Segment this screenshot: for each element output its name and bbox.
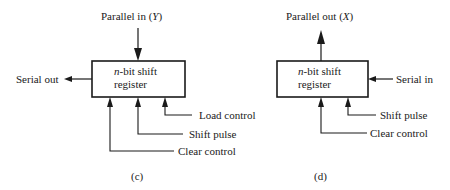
shift-pulse-arrow-icon: [135, 97, 141, 107]
parallel-in-close: ): [158, 10, 162, 22]
clear-control-arrow-icon: [318, 97, 324, 107]
shift-pulse-arrow-icon: [345, 97, 351, 107]
shift-register-diagrams: [0, 0, 450, 190]
load-control-arrow-icon: [162, 97, 168, 107]
shift-pulse-label: Shift pulse: [380, 109, 427, 121]
serial-in-arrow-icon: [368, 76, 376, 82]
parallel-in-text: Parallel in (: [101, 10, 152, 22]
parallel-out-arrow-icon: [317, 30, 325, 44]
load-control-label: Load control: [199, 109, 256, 121]
serial-out-arrow-icon: [64, 76, 72, 82]
parallel-out-close: ): [350, 10, 354, 22]
caption-c: (c): [131, 170, 143, 182]
parallel-in-label: Parallel in (Y): [101, 10, 162, 22]
clear-control-label: Clear control: [370, 127, 428, 139]
shift-pulse-label: Shift pulse: [189, 128, 236, 140]
register-line1: -bit shift: [120, 65, 158, 77]
parallel-out-text: Parallel out (: [286, 10, 343, 22]
register-line2: register: [114, 78, 157, 91]
register-text-d: n-bit shift register: [298, 65, 341, 91]
parallel-in-arrow-icon: [134, 48, 142, 61]
parallel-out-variable: X: [343, 10, 350, 22]
register-line2: register: [298, 78, 341, 91]
register-text-c: n-bit shift register: [114, 65, 157, 91]
serial-out-label: Serial out: [16, 73, 58, 85]
caption-d: (d): [314, 170, 327, 182]
parallel-out-label: Parallel out (X): [286, 10, 353, 22]
clear-control-label: Clear control: [178, 145, 236, 157]
clear-control-arrow-icon: [107, 97, 113, 107]
serial-in-label: Serial in: [396, 73, 433, 85]
register-line1: -bit shift: [304, 65, 342, 77]
